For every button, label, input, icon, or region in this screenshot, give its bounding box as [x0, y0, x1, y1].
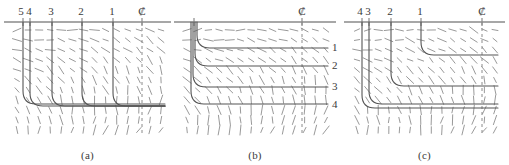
vector-arrow	[493, 115, 496, 124]
vector-arrow	[138, 117, 139, 124]
vector-arrow	[292, 116, 295, 125]
vector-arrow	[304, 77, 305, 83]
vector-arrow	[47, 57, 54, 62]
vector-arrow	[80, 68, 87, 72]
vector-arrow	[160, 57, 162, 63]
vector-arrow	[103, 29, 109, 32]
vector-arrow	[27, 117, 29, 123]
vector-arrow	[161, 106, 162, 114]
vector-arrow	[248, 38, 255, 42]
vector-arrow	[354, 68, 359, 72]
vector-arrow	[420, 105, 421, 114]
vector-arrow	[127, 107, 129, 114]
vector-arrow	[410, 127, 411, 133]
vector-arrow	[269, 39, 277, 41]
vector-arrow	[315, 96, 316, 104]
vector-arrow	[127, 66, 129, 74]
vector-arrow	[207, 97, 209, 104]
vector-arrow	[83, 107, 85, 113]
vector-arrow	[406, 77, 413, 84]
vector-arrow	[387, 77, 391, 84]
vector-arrow	[35, 68, 43, 71]
contour-curve	[23, 22, 165, 104]
vector-arrow	[238, 58, 243, 61]
vector-arrow	[37, 97, 41, 103]
vector-arrow	[248, 30, 255, 31]
vector-arrow	[115, 67, 117, 74]
vector-arrow	[292, 78, 295, 83]
vector-arrow	[28, 126, 29, 134]
contour-label: 5	[18, 5, 24, 17]
vector-arrow	[114, 77, 119, 83]
contour-label: 1	[332, 41, 338, 53]
vector-arrow	[314, 125, 317, 135]
vector-arrow	[79, 29, 88, 31]
vector-arrow	[261, 116, 262, 124]
vector-arrow	[365, 87, 371, 94]
vector-arrow	[314, 106, 316, 115]
vector-arrow	[429, 39, 434, 41]
vector-arrow	[387, 97, 391, 102]
vector-arrow	[158, 29, 163, 31]
vector-arrow	[439, 49, 445, 51]
vector-arrow	[408, 85, 411, 95]
vector-arrow	[473, 105, 474, 114]
vector-arrow	[492, 29, 498, 30]
vector-arrow	[160, 87, 161, 94]
vector-arrow	[36, 49, 42, 52]
vector-arrow	[218, 125, 220, 135]
vector-arrow	[440, 96, 443, 105]
vector-arrow	[472, 76, 476, 83]
panel-a-plot: 54321₡	[0, 0, 175, 140]
vector-arrow	[462, 67, 465, 74]
vector-arrow	[90, 38, 99, 42]
vector-arrow	[226, 58, 233, 63]
vector-arrow	[325, 117, 328, 122]
vector-arrow	[183, 77, 191, 83]
vector-arrow	[398, 67, 402, 72]
vector-arrow	[473, 96, 474, 104]
vector-arrow	[103, 126, 108, 135]
vector-arrow	[409, 116, 411, 125]
vector-arrow	[197, 126, 198, 134]
vector-arrow	[440, 67, 444, 72]
vector-arrow	[353, 49, 362, 51]
vector-arrow	[225, 30, 234, 31]
vector-arrow	[397, 49, 402, 52]
vector-arrow	[105, 117, 106, 123]
vector-arrow	[376, 78, 380, 82]
vector-arrow	[160, 65, 162, 74]
vector-arrow	[57, 30, 66, 31]
panel-c-caption: (c)	[340, 149, 509, 161]
vector-arrow	[367, 125, 369, 134]
vector-arrow	[72, 87, 74, 92]
vector-arrow	[471, 57, 477, 64]
panel-b-caption: (b)	[170, 149, 340, 161]
vector-arrow	[37, 78, 40, 83]
contour-label: 2	[332, 59, 338, 71]
vector-arrow	[460, 29, 466, 31]
vector-arrow	[303, 127, 306, 132]
vector-arrow	[138, 67, 140, 73]
vector-arrow	[324, 106, 328, 114]
vector-arrow	[269, 68, 275, 73]
vector-arrow	[356, 126, 358, 133]
vector-arrow	[125, 38, 130, 42]
vector-arrow	[60, 87, 62, 92]
vector-arrow	[72, 96, 73, 103]
vector-arrow	[494, 77, 497, 82]
vector-arrow	[103, 39, 108, 41]
vector-arrow	[398, 96, 402, 104]
vector-arrow	[384, 29, 393, 30]
vector-arrow	[304, 95, 305, 104]
vector-arrow	[482, 47, 486, 52]
vector-arrow	[58, 77, 64, 83]
vector-arrow	[148, 56, 153, 65]
vector-arrow	[282, 116, 285, 125]
vector-arrow	[354, 40, 359, 41]
vector-arrow	[229, 115, 230, 124]
vector-arrow	[217, 87, 220, 94]
vector-arrow	[71, 77, 74, 83]
vector-arrow	[461, 48, 466, 51]
vector-arrow	[355, 106, 360, 114]
